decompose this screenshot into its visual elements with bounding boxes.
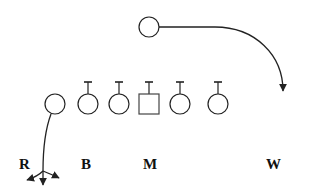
motion-player-circle bbox=[139, 17, 159, 37]
option-route-stem bbox=[43, 114, 51, 171]
option-branch-right-arrow bbox=[43, 171, 59, 178]
lineman-2 bbox=[78, 82, 98, 114]
label-b: B bbox=[81, 157, 91, 172]
lineman-5 bbox=[170, 82, 190, 114]
label-r: R bbox=[19, 157, 30, 172]
lineman-6 bbox=[208, 82, 228, 114]
label-m: M bbox=[143, 157, 157, 172]
option-branch-left-arrow bbox=[27, 171, 43, 180]
center-square bbox=[139, 82, 159, 114]
lineman-3 bbox=[109, 82, 129, 114]
lineman-1-circle bbox=[45, 94, 65, 114]
label-w: W bbox=[266, 157, 281, 172]
